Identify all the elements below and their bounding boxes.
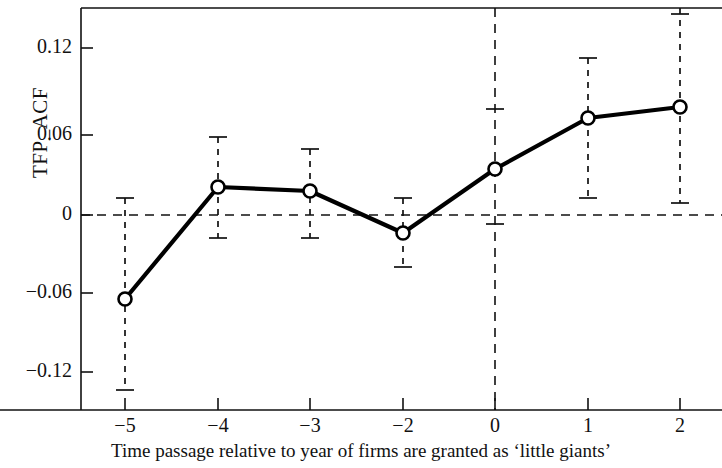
y-tick-label: −0.12 xyxy=(0,359,72,382)
y-tick-label: −0.06 xyxy=(0,280,72,303)
x-tick-label: −3 xyxy=(280,414,340,437)
x-axis-ticks xyxy=(125,398,680,410)
x-tick-label: −2 xyxy=(373,414,433,437)
y-axis-title: TFP_ACF xyxy=(28,23,53,243)
x-tick-label: 2 xyxy=(650,414,710,437)
error-bars xyxy=(116,8,689,390)
event-study-chart: 0.12 0.06 0 −0.06 −0.12 −5 −4 −3 −2 0 1 … xyxy=(0,0,722,468)
x-tick-label: −5 xyxy=(95,414,155,437)
y-axis-ticks xyxy=(81,48,93,372)
x-tick-label: −4 xyxy=(188,414,248,437)
chart-canvas xyxy=(0,0,722,468)
plot-frame xyxy=(0,8,722,410)
x-tick-label: 0 xyxy=(465,414,525,437)
x-tick-label: 1 xyxy=(558,414,618,437)
x-axis-title: Time passage relative to year of firms a… xyxy=(0,440,722,462)
